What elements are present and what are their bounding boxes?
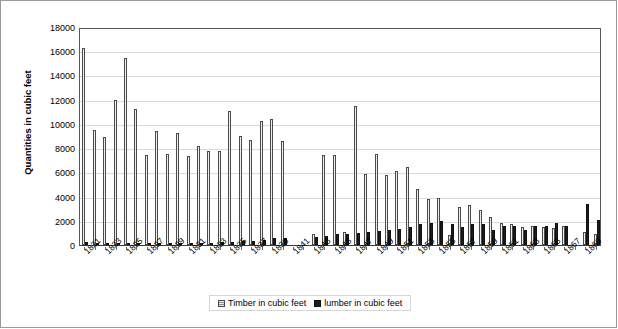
bar-timber [239, 136, 242, 245]
bar-timber [155, 131, 158, 245]
bar-timber [93, 130, 96, 245]
bar-group [456, 207, 466, 245]
y-axis-tick: 6000 [55, 168, 75, 178]
bar-timber [134, 109, 137, 245]
bar-timber [176, 133, 179, 245]
x-axis-tick-mark [116, 247, 117, 250]
y-axis-tick: 8000 [55, 144, 75, 154]
bar-group [320, 155, 330, 245]
plot-area [79, 28, 601, 246]
bar-group [132, 109, 142, 245]
bar-timber [270, 119, 273, 245]
x-axis-tick-mark [345, 247, 346, 250]
bar-group [90, 130, 100, 245]
bar-group [237, 136, 247, 245]
x-axis-tick-mark [199, 247, 200, 250]
bar-series-container [80, 29, 600, 245]
x-axis-tick-labels: 1821182318251827182918311833183518371839… [79, 247, 603, 293]
x-axis-tick-mark [471, 247, 472, 250]
x-axis-tick-mark [324, 247, 325, 250]
bar-group [372, 154, 382, 245]
x-axis-tick-mark [533, 247, 534, 250]
bar-timber [281, 141, 284, 245]
bar-timber [333, 155, 336, 245]
bar-group [257, 121, 267, 245]
bar-group [247, 140, 257, 245]
x-axis-tick-mark [178, 247, 179, 250]
bar-timber [114, 100, 117, 245]
bar-timber [187, 156, 190, 245]
bar-group [143, 155, 153, 245]
y-axis-tick: 14000 [50, 71, 75, 81]
x-axis-tick-mark [262, 247, 263, 250]
x-axis-tick-mark [512, 247, 513, 250]
bar-group [268, 119, 278, 245]
bar-group [216, 151, 226, 245]
chart-frame: Quantities in cubic feet 020004000600080… [0, 0, 617, 328]
bar-timber [166, 154, 169, 245]
bar-timber [260, 121, 263, 245]
bar-timber [103, 137, 106, 245]
bar-group [153, 131, 163, 245]
x-axis-tick-mark [283, 247, 284, 250]
bar-timber [82, 48, 85, 245]
bar-group [393, 171, 403, 245]
y-axis-tick: 16000 [50, 47, 75, 57]
legend-label-lumber: lumber in cubic feet [324, 298, 402, 308]
x-axis-tick-mark [303, 247, 304, 250]
bar-timber [322, 155, 325, 245]
bar-group [278, 141, 288, 245]
bar-group [80, 48, 90, 245]
bar-group [111, 100, 121, 245]
bar-group [174, 133, 184, 245]
chart-legend: Timber in cubic feet lumber in cubic fee… [209, 295, 411, 311]
bar-group [195, 146, 205, 245]
bar-group [226, 111, 236, 245]
bar-group [477, 210, 487, 245]
bar-group [101, 137, 111, 245]
x-axis-tick-mark [136, 247, 137, 250]
bar-group [351, 106, 361, 245]
bar-timber [145, 155, 148, 245]
y-axis-tick: 4000 [55, 193, 75, 203]
y-axis-tick: 0 [70, 241, 75, 251]
bar-timber [228, 111, 231, 245]
x-axis-tick-mark [596, 247, 597, 250]
bar-group [205, 151, 215, 245]
y-axis-tick-labels: 0200040006000800010000120001400016000180… [23, 21, 75, 253]
bar-lumber [586, 204, 589, 245]
bar-group [414, 189, 424, 245]
x-axis-tick-mark [554, 247, 555, 250]
bar-group [164, 154, 174, 245]
x-axis-tick-mark [408, 247, 409, 250]
bar-timber [124, 58, 127, 245]
bar-timber [249, 140, 252, 245]
bar-group [581, 204, 591, 245]
x-axis-tick-mark [450, 247, 451, 250]
y-axis-tick: 18000 [50, 23, 75, 33]
bar-group [404, 167, 414, 245]
y-axis-tick: 10000 [50, 120, 75, 130]
timber-swatch-icon [218, 300, 225, 307]
x-axis-tick-mark [575, 247, 576, 250]
x-axis-tick-mark [366, 247, 367, 250]
bar-timber [218, 151, 221, 245]
y-axis-tick: 2000 [55, 217, 75, 227]
bar-timber [354, 106, 357, 245]
bar-group [184, 156, 194, 245]
x-axis-tick-mark [387, 247, 388, 250]
x-axis-tick-mark [220, 247, 221, 250]
bar-timber [197, 146, 200, 245]
x-axis-tick-mark [95, 247, 96, 250]
bar-group [331, 155, 341, 245]
lumber-swatch-icon [314, 300, 321, 307]
y-axis-tick: 12000 [50, 96, 75, 106]
x-axis-tick-mark [241, 247, 242, 250]
x-axis-tick-mark [157, 247, 158, 250]
bar-group [122, 58, 132, 245]
legend-item-lumber: lumber in cubic feet [314, 298, 402, 308]
legend-item-timber: Timber in cubic feet [218, 298, 306, 308]
x-axis-tick-mark [429, 247, 430, 250]
legend-label-timber: Timber in cubic feet [228, 298, 306, 308]
bar-timber [207, 151, 210, 245]
